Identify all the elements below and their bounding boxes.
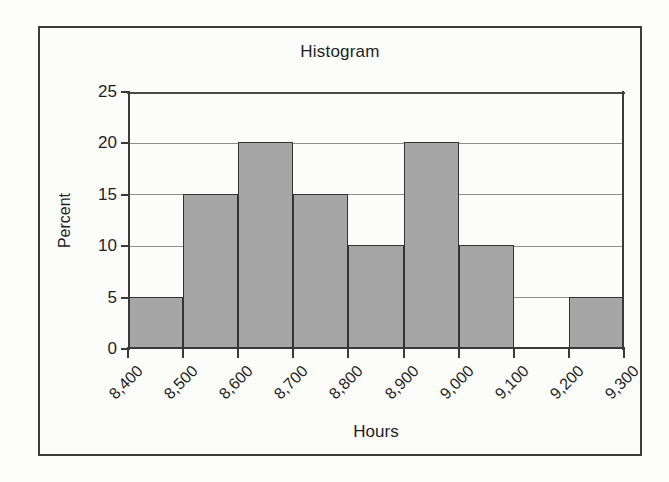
x-axis-title: Hours xyxy=(128,422,624,442)
x-axis-tick-label: 8,900 xyxy=(381,362,422,403)
x-axis-tick-label: 8,400 xyxy=(106,362,147,403)
x-axis-tick-label: 8,800 xyxy=(326,362,367,403)
y-axis-tick xyxy=(121,194,128,196)
x-axis-tick xyxy=(347,349,349,358)
histogram-bar xyxy=(348,245,403,348)
x-axis-tick-label: 8,600 xyxy=(216,362,257,403)
plot-area: 0510152025 8,4008,5008,6008,7008,8008,90… xyxy=(128,92,624,349)
x-axis-tick xyxy=(568,349,570,358)
x-axis-tick xyxy=(237,349,239,358)
x-axis-tick-label: 9,300 xyxy=(602,362,643,403)
x-axis-tick xyxy=(623,349,625,358)
gridline xyxy=(128,143,624,144)
y-axis-tick-label: 25 xyxy=(98,82,117,102)
x-axis-tick-label: 9,100 xyxy=(491,362,532,403)
figure-frame: Histogram Percent 0510152025 8,4008,5008… xyxy=(38,26,642,456)
plot-border-bottom xyxy=(127,347,625,349)
histogram-bar xyxy=(128,297,183,348)
page-background: Histogram Percent 0510152025 8,4008,5008… xyxy=(0,0,669,482)
x-axis-tick-label: 9,000 xyxy=(436,362,477,403)
x-axis-tick-label: 8,500 xyxy=(161,362,202,403)
histogram-bar xyxy=(459,245,514,348)
histogram-bar xyxy=(183,194,238,348)
y-axis-tick-label: 20 xyxy=(98,133,117,153)
histogram-bar xyxy=(293,194,348,348)
plot-border-right xyxy=(622,91,624,350)
histogram-bar xyxy=(404,142,459,348)
x-axis-tick xyxy=(458,349,460,358)
chart-title: Histogram xyxy=(40,42,640,62)
x-axis-tick xyxy=(403,349,405,358)
x-axis-tick xyxy=(127,349,129,358)
x-axis-tick xyxy=(513,349,515,358)
y-axis-tick-label: 0 xyxy=(108,339,117,359)
x-axis-tick-label: 9,200 xyxy=(547,362,588,403)
y-axis-tick-label: 5 xyxy=(108,288,117,308)
histogram-bar xyxy=(238,142,293,348)
y-axis-tick xyxy=(121,297,128,299)
y-axis-tick-label: 10 xyxy=(98,236,117,256)
plot-border-top xyxy=(127,92,625,94)
y-axis-title: Percent xyxy=(54,92,76,349)
histogram-bar xyxy=(569,297,624,348)
y-axis-tick xyxy=(121,245,128,247)
y-axis-tick xyxy=(121,142,128,144)
x-axis-tick-label: 8,700 xyxy=(271,362,312,403)
x-axis-tick xyxy=(182,349,184,358)
plot-border-left xyxy=(128,91,130,350)
y-axis-tick-label: 15 xyxy=(98,185,117,205)
x-axis-tick xyxy=(292,349,294,358)
